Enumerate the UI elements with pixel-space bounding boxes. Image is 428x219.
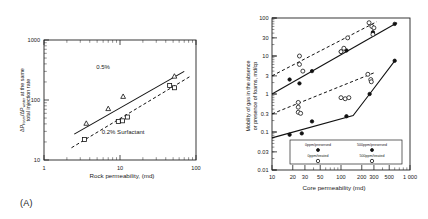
panel-a-svg: 110100101001000 0.5%0.2% Surfactant ΔPfo… — [0, 0, 214, 219]
y-label-b-line2: or presence of foams, md/cp — [252, 62, 258, 130]
x-tick-label: 1 — [42, 165, 45, 171]
y-tick-label: 1 — [265, 91, 268, 97]
panel-a-x-axis-label: Rock permeability, (md) — [90, 172, 155, 179]
data-point-circle-open — [297, 54, 301, 58]
x-tick-label: 100 — [191, 165, 200, 171]
legend-marker-open — [316, 159, 319, 162]
data-point-triangle — [84, 121, 89, 125]
y-tick-label: 0.01 — [258, 167, 269, 173]
data-point-circle-open — [301, 69, 305, 73]
panel-a-caption: (A) — [20, 198, 33, 208]
legend-label: 0ppm/treated — [307, 154, 328, 158]
data-point-circle-filled — [288, 133, 291, 136]
legend-label: 0ppm/preserved — [305, 143, 331, 147]
x-tick-label: 50 — [317, 174, 323, 180]
data-point-circle-open — [339, 50, 343, 54]
data-point-circle-open — [342, 46, 346, 50]
x-tick-label: 100 — [336, 174, 345, 180]
panel-a-chart: 110100101001000 0.5%0.2% Surfactant ΔPfo… — [0, 0, 214, 219]
data-point-square — [168, 83, 172, 87]
x-tick-label: 200 — [357, 174, 366, 180]
x-tick-label: 300 — [369, 174, 378, 180]
chart-annotation: 0.2% Surfactant — [102, 129, 145, 135]
data-point-circle-filled — [393, 22, 396, 25]
y-label-a-tail: at the same — [19, 68, 25, 98]
legend-marker-filled — [371, 149, 374, 152]
data-point-circle-open — [347, 96, 351, 100]
data-point-circle-open — [297, 62, 301, 66]
data-point-square — [172, 86, 176, 90]
panel-b-x-axis-label: Core permeability (md) — [303, 184, 366, 191]
data-point-triangle — [106, 106, 111, 110]
data-point-square — [116, 119, 120, 123]
data-point-circle-open — [299, 111, 303, 115]
data-point-circle-open — [369, 80, 373, 84]
panel-b-data — [272, 21, 397, 138]
y-tick-label: 0.1 — [261, 129, 269, 135]
x-tick-label: 500 — [385, 174, 394, 180]
y-tick-label: 100 — [31, 97, 40, 103]
y-tick-label: 1000 — [28, 37, 40, 43]
trend-line-solid — [74, 71, 184, 134]
data-point-circle-filled — [345, 115, 348, 118]
panel-b-svg: 102030501002003005001 0001003010310.30.1… — [214, 0, 428, 219]
trend-line-0ppm/treated — [272, 22, 377, 76]
data-point-circle-filled — [310, 69, 313, 72]
data-point-circle-filled — [288, 78, 291, 81]
y-label-a-line2: total injection rate — [25, 79, 31, 121]
y-tick-label: 3 — [265, 73, 268, 79]
y-tick-label: 0.03 — [258, 149, 269, 155]
x-tick-label: 1 000 — [403, 174, 417, 180]
data-point-circle-open — [339, 96, 343, 100]
data-point-circle-filled — [298, 82, 301, 85]
data-point-circle-open — [346, 36, 350, 40]
x-tick-label: 30 — [302, 174, 308, 180]
y-label-b-line1: Mobility of gas in the absence — [245, 60, 251, 131]
legend-label: 500ppm/preserved — [357, 143, 387, 147]
panel-b-legend: 0ppm/preserved500ppm/preserved0ppm/treat… — [290, 140, 402, 164]
legend-marker-filled — [317, 149, 320, 152]
x-tick-label: 10 — [269, 174, 275, 180]
legend-label: 500ppm/treated — [359, 154, 384, 158]
panel-b-chart: 102030501002003005001 0001003010310.30.1… — [214, 0, 428, 219]
y-tick-label: 0.3 — [261, 111, 269, 117]
data-point-circle-open — [367, 21, 371, 25]
y-tick-label: 30 — [262, 35, 268, 41]
y-tick-label: 10 — [262, 53, 268, 59]
panel-a-y-axis-label: ΔPfoam/ΔPwater at the same total injecti… — [19, 68, 31, 132]
panel-a-data: 0.5%0.2% Surfactant — [71, 64, 190, 148]
data-point-circle-filled — [368, 92, 371, 95]
data-point-square — [125, 115, 129, 119]
panel-b-y-axis-label: Mobility of gas in the absence or presen… — [245, 60, 258, 131]
data-point-circle-filled — [310, 120, 313, 123]
x-tick-label: 20 — [290, 174, 296, 180]
legend-marker-open — [370, 159, 373, 162]
data-point-circle-open — [296, 105, 300, 109]
data-point-circle-filled — [393, 59, 396, 62]
x-tick-label: 10 — [117, 165, 123, 171]
data-point-circle-filled — [300, 132, 303, 135]
panel-a-axes: 110100101001000 — [28, 37, 201, 171]
data-point-square — [82, 137, 86, 141]
chart-annotation: 0.5% — [96, 64, 110, 70]
data-point-triangle — [121, 94, 126, 98]
y-tick-label: 100 — [259, 15, 268, 21]
data-point-circle-open — [296, 100, 300, 104]
data-point-circle-open — [372, 26, 376, 30]
data-point-square — [121, 119, 125, 123]
data-point-circle-open — [371, 32, 375, 36]
trend-line-500ppm/preserved — [272, 60, 396, 138]
y-tick-label: 10 — [34, 157, 40, 163]
plot-frame — [44, 40, 196, 160]
two-panel-figure: 110100101001000 0.5%0.2% Surfactant ΔPfo… — [0, 0, 428, 219]
data-point-circle-open — [366, 72, 370, 76]
